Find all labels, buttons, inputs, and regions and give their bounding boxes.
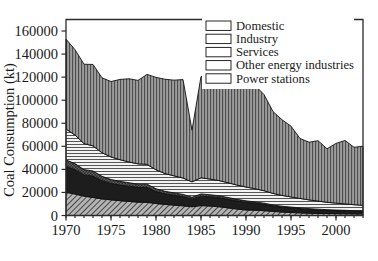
x-tick-label: 1970 (52, 222, 81, 238)
y-tick-label: 160000 (15, 23, 59, 39)
y-tick-label: 60000 (22, 138, 58, 154)
coal-consumption-chart: 0200004000060000800001000001200001400001… (0, 0, 378, 261)
y-tick-label: 80000 (22, 115, 58, 131)
y-tick-label: 100000 (15, 92, 59, 108)
legend-label: Power stations (236, 72, 310, 86)
legend-label: Domestic (236, 19, 285, 33)
x-tick-label: 1990 (232, 222, 261, 238)
y-tick-marks (62, 31, 67, 215)
x-tick-label: 1985 (187, 222, 216, 238)
legend-label: Services (236, 45, 279, 59)
chart-canvas: 0200004000060000800001000001200001400001… (0, 0, 378, 261)
x-tick-label: 1980 (142, 222, 171, 238)
y-tick-label: 40000 (22, 161, 58, 177)
y-tick-label: 120000 (15, 69, 59, 85)
x-tick-label: 1975 (97, 222, 126, 238)
legend-label: Other energy industries (236, 58, 354, 72)
legend-label: Industry (236, 32, 279, 46)
x-tick-labels: 1970197519801985199019952000 (52, 222, 351, 238)
x-tick-label: 2000 (322, 222, 351, 238)
y-tick-label: 140000 (15, 46, 59, 62)
y-axis-title: Coal Consumption (kt) (1, 63, 18, 197)
chart-legend: DomesticIndustryServicesOther energy ind… (202, 18, 354, 89)
y-tick-label: 20000 (22, 184, 58, 200)
y-tick-labels: 0200004000060000800001000001200001400001… (15, 23, 59, 223)
x-tick-label: 1995 (277, 222, 306, 238)
